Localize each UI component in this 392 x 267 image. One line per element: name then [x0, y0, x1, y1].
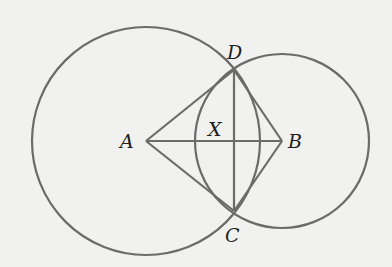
- segment-bd: [234, 70, 282, 141]
- geometry-diagram: A B C D X: [0, 0, 392, 267]
- segment-bc: [234, 141, 282, 211]
- segment-ac: [146, 141, 234, 211]
- label-c: C: [225, 224, 240, 246]
- label-x: X: [206, 118, 223, 140]
- label-a: A: [118, 130, 134, 152]
- label-d: D: [226, 41, 242, 63]
- label-b: B: [287, 130, 302, 152]
